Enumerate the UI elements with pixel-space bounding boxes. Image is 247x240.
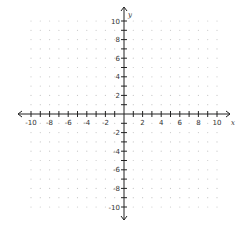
grid-dot	[161, 76, 162, 77]
grid-dot	[189, 58, 190, 59]
grid-dot	[179, 67, 180, 68]
grid-dot	[58, 76, 59, 77]
grid-dot	[30, 86, 31, 87]
grid-dot	[30, 141, 31, 142]
grid-dot	[49, 160, 50, 161]
grid-dot	[58, 48, 59, 49]
grid-dot	[96, 188, 97, 189]
y-tick-label: -6	[113, 166, 121, 174]
grid-dot	[198, 197, 199, 198]
grid-dot	[170, 104, 171, 105]
grid-dot	[40, 141, 41, 142]
grid-dot	[207, 141, 208, 142]
grid-dot	[207, 104, 208, 105]
grid-dot	[49, 76, 50, 77]
grid-dot	[216, 188, 217, 189]
grid-dot	[133, 20, 134, 21]
grid-dot	[40, 197, 41, 198]
grid-dot	[96, 151, 97, 152]
grid-dot	[170, 48, 171, 49]
grid-dot	[170, 76, 171, 77]
grid-dot	[68, 206, 69, 207]
x-tick-label: -10	[25, 119, 36, 127]
grid-dot	[68, 160, 69, 161]
grid-dot	[68, 179, 69, 180]
grid-dot	[216, 179, 217, 180]
grid-dot	[105, 104, 106, 105]
grid-dot	[133, 58, 134, 59]
grid-dot	[68, 169, 69, 170]
grid-dot	[198, 58, 199, 59]
grid-dot	[49, 48, 50, 49]
grid-dot	[68, 151, 69, 152]
grid-dot	[114, 30, 115, 31]
grid-dot	[30, 20, 31, 21]
grid-dot	[77, 86, 78, 87]
grid-dot	[86, 104, 87, 105]
grid-dot	[58, 169, 59, 170]
grid-dot	[151, 67, 152, 68]
grid-dot	[49, 151, 50, 152]
grid-dot	[179, 20, 180, 21]
grid-dot	[58, 20, 59, 21]
grid-dot	[30, 179, 31, 180]
grid-dot	[179, 151, 180, 152]
grid-dot	[105, 132, 106, 133]
grid-dot	[189, 197, 190, 198]
grid-dot	[142, 58, 143, 59]
y-tick-label: 8	[116, 36, 120, 44]
grid-dot	[40, 67, 41, 68]
grid-dot	[142, 104, 143, 105]
x-tick-label: 10	[213, 119, 222, 127]
grid-dot	[151, 188, 152, 189]
grid-dot	[49, 197, 50, 198]
grid-dot	[77, 141, 78, 142]
grid-dot	[58, 30, 59, 31]
grid-dot	[216, 206, 217, 207]
grid-dot	[133, 197, 134, 198]
grid-dot	[77, 169, 78, 170]
grid-dot	[170, 188, 171, 189]
grid-dot	[179, 160, 180, 161]
grid-dot	[189, 169, 190, 170]
grid-dot	[105, 86, 106, 87]
grid-dot	[40, 48, 41, 49]
grid-dot	[86, 58, 87, 59]
grid-dot	[49, 86, 50, 87]
grid-dot	[77, 132, 78, 133]
grid-dot	[40, 58, 41, 59]
grid-dot	[68, 104, 69, 105]
grid-dot	[133, 179, 134, 180]
y-tick-label: -10	[109, 204, 120, 212]
grid-dot	[96, 30, 97, 31]
grid-dot	[77, 160, 78, 161]
grid-dot	[151, 141, 152, 142]
grid-dot	[86, 179, 87, 180]
grid-dot	[170, 206, 171, 207]
grid-dot	[207, 76, 208, 77]
grid-dot	[207, 86, 208, 87]
grid-dot	[86, 67, 87, 68]
grid-dot	[77, 67, 78, 68]
grid-dot	[198, 132, 199, 133]
grid-dot	[133, 76, 134, 77]
grid-dot	[114, 86, 115, 87]
grid-dot	[77, 123, 78, 124]
grid-dot	[189, 123, 190, 124]
grid-dot	[86, 206, 87, 207]
grid-dot	[96, 20, 97, 21]
grid-dot	[30, 30, 31, 31]
grid-dot	[49, 169, 50, 170]
grid-dot	[207, 67, 208, 68]
grid-dot	[30, 48, 31, 49]
grid-dot	[170, 30, 171, 31]
grid-dot	[40, 188, 41, 189]
grid-dot	[142, 197, 143, 198]
grid-dot	[207, 160, 208, 161]
grid-dot	[30, 58, 31, 59]
grid-dot	[170, 197, 171, 198]
grid-dot	[105, 188, 106, 189]
grid-dot	[207, 188, 208, 189]
grid-dot	[142, 39, 143, 40]
grid-dot	[198, 67, 199, 68]
